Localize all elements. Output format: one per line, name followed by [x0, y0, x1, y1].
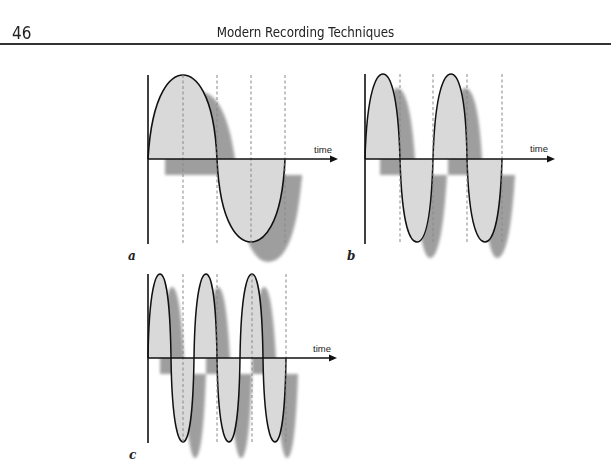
panel-c-time-label: time	[313, 343, 331, 354]
panel-a-label: a	[128, 249, 136, 263]
panel-a-time-label: time	[314, 144, 332, 155]
panel-c-label: c	[129, 448, 136, 462]
panel-c-diagram	[148, 274, 337, 458]
panel-c-arrow-icon	[329, 355, 337, 362]
panel-b-arrow-icon	[547, 156, 555, 163]
panel-b-label: b	[347, 249, 355, 263]
panel-b-diagram	[365, 74, 555, 258]
panel-a-diagram	[148, 75, 338, 262]
panel-b-time-label: time	[530, 143, 548, 154]
panel-a-arrow-icon	[330, 156, 338, 163]
waveform-figure	[0, 0, 611, 476]
